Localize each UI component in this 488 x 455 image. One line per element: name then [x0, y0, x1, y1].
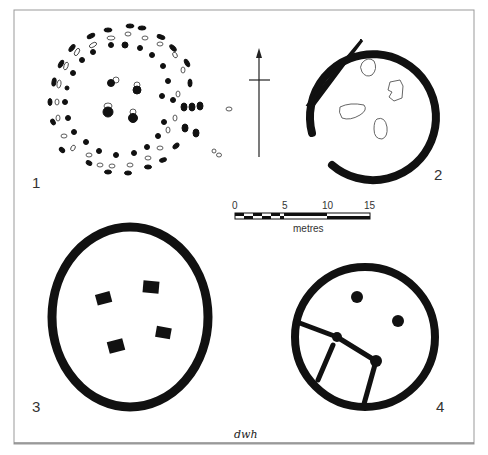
scale-bar	[235, 213, 370, 219]
plan-4-ring-groove	[295, 267, 435, 407]
panel-label-1: 1	[32, 174, 40, 191]
panel-label-3: 3	[32, 398, 40, 415]
figure-frame: 1 2 0 5 10 15 metres	[0, 0, 488, 455]
scale-tick-0: 0	[232, 200, 238, 211]
panel-label-2: 2	[434, 166, 442, 183]
archaeological-plans: 1 2 0 5 10 15 metres	[0, 0, 488, 455]
panel-label-4: 4	[436, 398, 444, 415]
scale-tick-10: 10	[322, 200, 334, 211]
plan-2-ring-groove	[308, 40, 436, 180]
scale-tick-15: 15	[364, 200, 376, 211]
north-arrow-icon	[249, 48, 270, 157]
signature: dwh	[234, 428, 258, 441]
scale-unit: metres	[293, 223, 324, 234]
scale-tick-5: 5	[282, 200, 288, 211]
plan-1-postholes	[48, 24, 232, 175]
plan-3-ring-groove	[52, 227, 208, 407]
